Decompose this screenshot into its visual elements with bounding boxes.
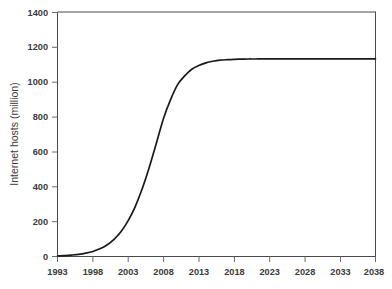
internet-hosts-line-chart: 1400 1200 1000 800 600 400 200 0 1993 19… [0,0,392,289]
y-tick-label: 200 [33,217,48,227]
x-tick-label: 1998 [83,267,103,277]
x-tick-label: 2033 [330,267,350,277]
x-tick-label: 2008 [153,267,173,277]
x-tick-label: 2003 [118,267,138,277]
x-tick-label: 2018 [224,267,244,277]
y-tick-label: 600 [33,147,48,157]
x-tick-label: 1993 [47,267,67,277]
y-tick-label: 1200 [28,42,48,52]
x-tick-label: 2023 [259,267,279,277]
chart-background [0,0,392,289]
y-tick-label: 0 [43,252,48,262]
y-tick-label: 800 [33,112,48,122]
y-tick-label: 400 [33,182,48,192]
chart-figure: 1400 1200 1000 800 600 400 200 0 1993 19… [0,0,392,289]
y-axis-title: Internet hosts (million) [8,82,20,185]
x-tick-label: 2028 [295,267,315,277]
y-tick-label: 1000 [28,77,48,87]
x-tick-label: 2038 [364,267,384,277]
y-tick-label: 1400 [28,8,48,18]
x-tick-label: 2013 [189,267,209,277]
